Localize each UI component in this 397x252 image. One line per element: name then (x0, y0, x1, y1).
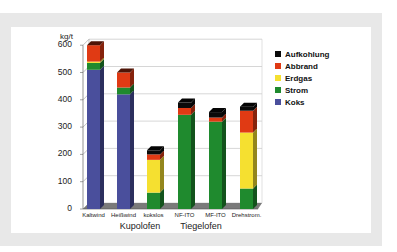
bar-segment-strom (147, 193, 160, 209)
bar-side-erdgas (160, 156, 164, 193)
bar-segment-erdgas (87, 62, 100, 63)
y-tick-label: 300 (50, 121, 72, 131)
bar-segment-aufkohlung (147, 150, 160, 154)
legend-swatch (275, 75, 281, 81)
bar-segment-abbrand (209, 118, 222, 122)
x-category-label: MF-ITO (199, 212, 233, 218)
legend-item-erdgas: Erdgas (275, 72, 329, 84)
legend-label: Koks (285, 98, 305, 107)
x-group-label: Kupolofen (110, 221, 170, 231)
y-tick-label: 0 (50, 203, 72, 213)
legend-label: Abbrand (285, 62, 318, 71)
legend-item-aufkohlung: Aufkohlung (275, 48, 329, 60)
legend: AufkohlungAbbrandErdgasStromKoks (275, 48, 329, 108)
bar-segment-aufkohlung (240, 107, 253, 111)
y-tick-label: 200 (50, 148, 72, 158)
bar-segment-aufkohlung (178, 103, 191, 108)
x-category-label: kokslos (137, 212, 171, 218)
bar-segment-koks (87, 70, 100, 209)
bar-side-strom (191, 111, 195, 209)
legend-item-koks: Koks (275, 96, 329, 108)
bar-segment-strom (240, 189, 253, 209)
y-tick-label: 400 (50, 94, 72, 104)
legend-swatch (275, 51, 281, 57)
legend-item-abbrand: Abbrand (275, 60, 329, 72)
y-tick-label: 600 (50, 39, 72, 49)
bar-segment-abbrand (117, 73, 130, 88)
legend-label: Erdgas (285, 74, 312, 83)
bar-side-strom (253, 185, 257, 209)
y-tick-label: 500 (50, 67, 72, 77)
bar-side-koks (130, 90, 134, 209)
bar-segment-erdgas (147, 160, 160, 193)
x-category-label: Kaltwind (77, 212, 111, 218)
bar-segment-aufkohlung (209, 112, 222, 117)
floor (83, 203, 262, 209)
x-category-label: NF-ITO (168, 212, 202, 218)
bar-side-koks (100, 66, 104, 209)
bar-segment-strom (178, 115, 191, 209)
x-group-label: Tiegelofen (171, 221, 231, 231)
x-category-label: Heißwind (107, 212, 141, 218)
y-tick-label: 100 (50, 176, 72, 186)
bar-side-erdgas (253, 129, 257, 189)
bar-segment-abbrand (240, 111, 253, 133)
bar-segment-erdgas (240, 133, 253, 189)
legend-swatch (275, 87, 281, 93)
legend-label: Aufkohlung (285, 50, 329, 59)
bar-side-strom (222, 118, 226, 209)
legend-swatch (275, 63, 281, 69)
legend-label: Strom (285, 86, 308, 95)
bar-segment-strom (209, 122, 222, 209)
bar-segment-strom (117, 88, 130, 95)
legend-item-strom: Strom (275, 84, 329, 96)
bar-segment-strom (87, 63, 100, 70)
x-category-label: Drehstrom. (230, 212, 264, 218)
bar-segment-koks (117, 94, 130, 209)
bar-side-abbrand (253, 107, 257, 133)
bar-segment-abbrand (178, 108, 191, 115)
bar-segment-abbrand (87, 45, 100, 61)
bar-segment-abbrand (147, 154, 160, 159)
legend-swatch (275, 99, 281, 105)
